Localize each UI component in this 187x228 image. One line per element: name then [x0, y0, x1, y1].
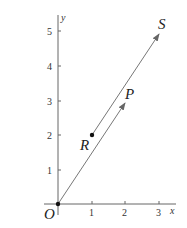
- label-s: S: [158, 16, 166, 32]
- x-tick-2: 2: [122, 207, 127, 218]
- y-axis-label: y: [60, 12, 66, 23]
- y-tick-3: 3: [47, 96, 52, 107]
- coordinate-diagram: x y 1 2 3 1 2 3 4 5 O R P S: [0, 0, 187, 228]
- label-p: P: [124, 86, 134, 102]
- x-axis-label: x: [169, 205, 175, 216]
- vector-op: [58, 103, 125, 204]
- point-origin: [56, 202, 60, 206]
- label-r: R: [79, 137, 89, 153]
- y-tick-2: 2: [47, 130, 52, 141]
- x-tick-3: 3: [156, 207, 161, 218]
- y-tick-5: 5: [47, 26, 52, 37]
- y-tick-1: 1: [47, 165, 52, 176]
- y-tick-4: 4: [47, 61, 52, 72]
- x-tick-1: 1: [89, 207, 94, 218]
- vector-rs: [92, 34, 159, 135]
- point-r: [90, 133, 94, 137]
- y-ticks: 1 2 3 4 5: [47, 26, 61, 176]
- label-o: O: [44, 206, 55, 222]
